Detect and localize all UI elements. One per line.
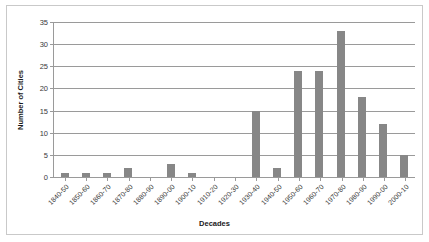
bar bbox=[315, 71, 323, 177]
x-axis-tick-mark bbox=[320, 178, 321, 181]
x-axis-tick-label: 1840-50 bbox=[46, 183, 69, 206]
bar bbox=[103, 173, 111, 177]
bar bbox=[358, 97, 366, 177]
bar-slot bbox=[224, 22, 245, 177]
bar-slot bbox=[373, 22, 394, 177]
x-axis-tick-mark bbox=[192, 178, 193, 181]
y-axis-tick-label: 25 bbox=[40, 62, 48, 71]
x-axis-title: Decades bbox=[7, 219, 422, 228]
bar bbox=[337, 31, 345, 177]
y-axis-tick-label: 15 bbox=[40, 106, 48, 115]
bar-slot bbox=[394, 22, 415, 177]
bar-slot bbox=[75, 22, 96, 177]
bar-slot bbox=[351, 22, 372, 177]
bar-series bbox=[54, 22, 415, 177]
y-axis-tick-mark bbox=[50, 22, 53, 23]
x-axis-tick-mark bbox=[278, 178, 279, 181]
bar bbox=[400, 155, 408, 177]
x-axis-tick-mark bbox=[256, 178, 257, 181]
bar-slot bbox=[181, 22, 202, 177]
x-label-slot: 2000-10 bbox=[395, 182, 416, 222]
y-axis-tick-label: 35 bbox=[40, 18, 48, 27]
x-axis-tick-mark bbox=[363, 178, 364, 181]
x-axis-tick-mark bbox=[65, 178, 66, 181]
bar-slot bbox=[203, 22, 224, 177]
x-axis-tick-mark bbox=[299, 178, 300, 181]
bar-slot bbox=[160, 22, 181, 177]
bar bbox=[82, 173, 90, 177]
y-axis-tick-mark bbox=[50, 155, 53, 156]
bar-slot bbox=[96, 22, 117, 177]
bar bbox=[379, 124, 387, 177]
bar bbox=[167, 164, 175, 177]
x-axis-tick-mark bbox=[384, 178, 385, 181]
bar bbox=[124, 168, 132, 177]
y-axis-tick-label: 0 bbox=[44, 173, 48, 182]
bar-slot bbox=[245, 22, 266, 177]
bar-slot bbox=[118, 22, 139, 177]
y-axis-tick-mark bbox=[50, 66, 53, 67]
bar bbox=[252, 111, 260, 177]
y-axis-tick-label: 30 bbox=[40, 40, 48, 49]
y-axis-title: Number of Cities bbox=[16, 70, 25, 130]
bar-slot bbox=[139, 22, 160, 177]
y-axis-tick-mark bbox=[50, 111, 53, 112]
bar-slot bbox=[54, 22, 75, 177]
x-axis-tick-mark bbox=[405, 178, 406, 181]
x-axis-tick-mark bbox=[86, 178, 87, 181]
y-axis-tick-label: 10 bbox=[40, 128, 48, 137]
x-axis-tick-labels: 1840-501850-601860-701870-801880-901890-… bbox=[54, 182, 416, 222]
y-axis-tick-mark bbox=[50, 44, 53, 45]
bar-slot bbox=[266, 22, 287, 177]
bar bbox=[61, 173, 69, 177]
bar bbox=[294, 71, 302, 177]
bar bbox=[188, 173, 196, 177]
x-axis-tick-mark bbox=[235, 178, 236, 181]
x-axis-tick-mark bbox=[150, 178, 151, 181]
bar-slot bbox=[309, 22, 330, 177]
x-axis-tick-mark bbox=[342, 178, 343, 181]
plot-area: 05101520253035 bbox=[53, 22, 415, 178]
bar-chart: 05101520253035 1840-501850-601860-701870… bbox=[6, 5, 423, 235]
x-axis-tick-mark bbox=[214, 178, 215, 181]
bar bbox=[273, 168, 281, 177]
x-axis-tick-mark bbox=[129, 178, 130, 181]
bar-slot bbox=[330, 22, 351, 177]
y-axis-tick-label: 20 bbox=[40, 84, 48, 93]
y-axis-tick-mark bbox=[50, 177, 53, 178]
x-axis-tick-mark bbox=[107, 178, 108, 181]
x-axis-tick-mark bbox=[171, 178, 172, 181]
bar-slot bbox=[288, 22, 309, 177]
y-axis-tick-label: 5 bbox=[44, 150, 48, 159]
y-axis-tick-mark bbox=[50, 88, 53, 89]
y-axis-tick-mark bbox=[50, 133, 53, 134]
